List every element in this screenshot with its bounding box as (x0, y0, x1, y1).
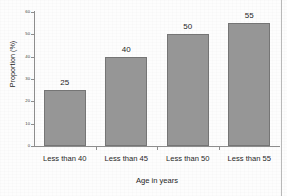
bar (167, 34, 209, 146)
bar-value-label: 50 (168, 23, 208, 31)
x-axis-category-label: Less than 45 (92, 154, 160, 163)
x-axis-tick-mark (219, 147, 220, 150)
bar-value-label: 55 (229, 12, 269, 20)
y-axis-tick-label: 50 (16, 32, 30, 36)
y-axis-tick-mark (31, 146, 34, 147)
x-axis-tick-mark (96, 147, 97, 150)
bar-chart-figure: 0102030405060 25Less than 4040Less than … (0, 0, 287, 196)
y-axis-tick-label: 40 (16, 55, 30, 59)
y-axis-tick-label: 10 (16, 122, 30, 126)
bar (228, 23, 270, 146)
y-axis-tick-mark (31, 79, 34, 80)
y-axis-tick-mark (31, 57, 34, 58)
y-axis-tick-label: 20 (16, 99, 30, 103)
x-axis-category-label: Less than 55 (215, 154, 283, 163)
y-axis-tick-label: 0 (16, 144, 30, 148)
y-axis-tick-mark (31, 124, 34, 125)
x-axis-category-label: Less than 50 (154, 154, 222, 163)
y-axis-title: Proportion (%) (9, 19, 17, 109)
y-axis-tick-mark (31, 34, 34, 35)
top-cutoff-text (48, 0, 263, 5)
x-axis-title: Age in years (34, 176, 280, 185)
y-axis-tick-label: 30 (16, 77, 30, 81)
x-axis-tick-mark (157, 147, 158, 150)
y-axis-tick-label: 60 (16, 10, 30, 14)
bar (44, 90, 86, 146)
y-axis-tick-mark (31, 101, 34, 102)
y-axis-tick-mark (31, 12, 34, 13)
x-axis-category-label: Less than 40 (31, 154, 99, 163)
bar (105, 57, 147, 146)
y-axis-line (34, 11, 35, 147)
bar-value-label: 40 (106, 46, 146, 54)
bar-value-label: 25 (45, 79, 85, 87)
scan-edge-artifact (281, 0, 282, 196)
